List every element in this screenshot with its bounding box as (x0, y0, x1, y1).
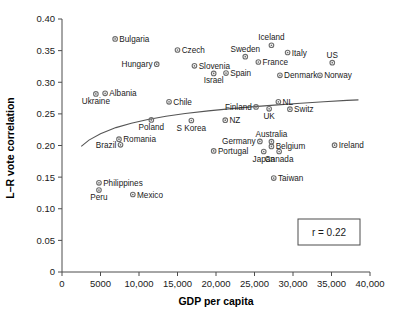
data-point-label: Australia (256, 130, 288, 139)
data-point[interactable]: Bulgaria (113, 35, 150, 44)
data-point[interactable]: France (256, 58, 288, 67)
data-point[interactable]: Ireland (332, 141, 364, 150)
data-point-label: Italy (292, 49, 308, 58)
data-point[interactable]: Denmark (278, 71, 319, 80)
x-tick-label: 10,000 (124, 278, 153, 289)
data-point-label: Ireland (339, 141, 364, 150)
data-point-label: Poland (139, 123, 165, 132)
data-point-label: Germany (222, 137, 257, 146)
data-point[interactable]: Brazil (96, 141, 123, 150)
data-point[interactable]: Romania (117, 135, 157, 144)
scatter-chart: 00.050.100.150.200.250.300.350.40 050001… (0, 0, 401, 318)
data-point-label: US (327, 51, 339, 60)
data-point-label: NZ (229, 116, 240, 125)
x-tick-label: 35,000 (317, 278, 346, 289)
x-tick-label: 20,000 (201, 278, 230, 289)
y-tick-label: 0.10 (37, 203, 56, 214)
y-axis: 00.050.100.150.200.250.300.350.40 (37, 13, 63, 277)
data-point-label: Spain (230, 69, 251, 78)
data-point-label: Switz (294, 105, 314, 114)
data-point-label: Sweden (230, 45, 260, 54)
data-points: BulgariaCzechSwedenIcelandItalyUSHungary… (82, 33, 364, 202)
y-tick-label: 0.25 (37, 108, 56, 119)
data-point[interactable]: Belgium (269, 142, 305, 151)
x-tick-label: 15,000 (163, 278, 192, 289)
data-point-label: Taiwan (278, 174, 304, 183)
data-point[interactable]: Mexico (131, 191, 164, 200)
y-tick-label: 0.30 (37, 77, 56, 88)
data-point[interactable]: Chile (167, 98, 193, 107)
data-point[interactable]: Philippines (97, 179, 143, 188)
data-point-label: NL (283, 98, 294, 107)
data-point-label: France (263, 58, 289, 67)
data-point-label: Canada (265, 155, 294, 164)
data-point[interactable]: Portugal (211, 147, 248, 156)
data-point-label: Belgium (276, 142, 306, 151)
data-point[interactable]: Sweden (230, 45, 260, 59)
data-point[interactable]: Germany (222, 137, 262, 146)
data-point[interactable]: Poland (139, 118, 165, 132)
data-point[interactable]: Hungary (122, 60, 159, 69)
y-tick-label: 0.40 (37, 13, 56, 24)
data-point[interactable]: NZ (223, 116, 240, 125)
data-point-label: Israel (204, 76, 224, 85)
data-point-label: Philippines (103, 179, 143, 188)
data-point-label: Czech (182, 46, 206, 55)
data-point[interactable]: Taiwan (271, 174, 303, 183)
data-point[interactable]: Italy (285, 49, 307, 58)
data-point-label: Norway (324, 71, 353, 80)
data-point[interactable]: Czech (175, 46, 205, 55)
data-point-label: Bulgaria (119, 35, 149, 44)
correlation-value: r = 0.22 (312, 227, 347, 238)
x-tick-label: 5000 (90, 278, 111, 289)
x-axis-title: GDP per capita (178, 295, 253, 307)
data-point-label: Hungary (122, 60, 154, 69)
data-point[interactable]: Finland (225, 103, 258, 112)
y-tick-label: 0 (50, 266, 55, 277)
data-point[interactable]: US (327, 51, 339, 65)
data-point[interactable]: UK (263, 107, 275, 121)
chart-canvas: 00.050.100.150.200.250.300.350.40 050001… (0, 0, 401, 318)
data-point-label: S Korea (177, 124, 207, 133)
data-point-label: Romania (123, 135, 156, 144)
data-point-label: Brazil (96, 141, 117, 150)
data-point[interactable]: Slovenia (192, 62, 230, 71)
y-axis-title: L–R vote correlation (4, 97, 16, 199)
x-tick-label: 40,000 (355, 278, 384, 289)
data-point-label: Ukraine (82, 97, 111, 106)
data-point[interactable]: Israel (204, 71, 224, 85)
data-point-label: Finland (225, 103, 252, 112)
data-point[interactable]: Peru (90, 188, 108, 202)
x-tick-label: 25,000 (240, 278, 269, 289)
data-point[interactable]: S Korea (177, 118, 207, 132)
data-point-label: Peru (90, 193, 108, 202)
data-point-label: Chile (173, 98, 192, 107)
correlation-annotation: r = 0.22 (298, 219, 360, 245)
data-point[interactable]: NL (276, 98, 293, 107)
x-tick-label: 30,000 (278, 278, 307, 289)
data-point-label: Iceland (258, 33, 285, 42)
data-point-label: Mexico (137, 191, 163, 200)
y-tick-label: 0.15 (37, 172, 56, 183)
data-point-label: Slovenia (199, 62, 231, 71)
data-point[interactable]: Iceland (258, 33, 285, 47)
y-tick-label: 0.20 (37, 140, 56, 151)
x-axis: 0500010,00015,00020,00025,00030,00035,00… (59, 272, 384, 289)
data-point-label: Portugal (218, 147, 249, 156)
data-point[interactable]: Ukraine (82, 92, 111, 106)
y-tick-label: 0.05 (37, 235, 56, 246)
data-point-label: UK (263, 112, 275, 121)
x-tick-label: 0 (59, 278, 64, 289)
y-tick-label: 0.35 (37, 45, 56, 56)
data-point-label: Denmark (284, 71, 318, 80)
data-point[interactable]: Norway (318, 71, 353, 80)
data-point-label: Albania (109, 89, 137, 98)
